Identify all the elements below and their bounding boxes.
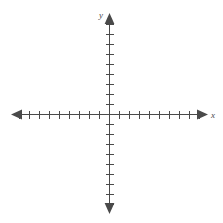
coordinate-plane-figure: y x [0,0,223,223]
axes-group [11,13,208,214]
x-axis-left-arrowhead [11,110,22,120]
x-axis-right-arrowhead [197,110,208,120]
y-axis-label: y [99,11,103,20]
axes-svg [0,0,223,223]
x-axis-label: x [211,111,215,120]
y-axis-top-arrowhead [105,13,115,24]
